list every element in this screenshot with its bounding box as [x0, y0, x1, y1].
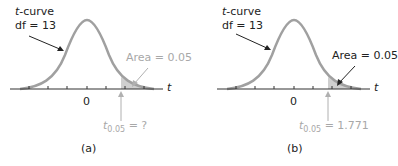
curve-label: t-curve [15, 6, 54, 18]
df-label: df = 13 [15, 20, 56, 32]
panel-b: t-curve df = 13 Area = 0.05 t 0 t0.05 = … [197, 0, 393, 166]
zero-tick-label: 0 [83, 96, 90, 108]
axis-variable-label: t [374, 82, 378, 94]
curve-label-rest: -curve [226, 5, 261, 18]
critical-value: = 1.771 [321, 119, 369, 132]
area-label: Area = 0.05 [332, 50, 398, 62]
arrowhead-up-icon [118, 91, 124, 97]
critical-value-label: t0.05 = 1.771 [299, 120, 369, 133]
area-label: Area = 0.05 [126, 52, 192, 64]
curve-label: t-curve [222, 6, 261, 18]
critical-value: = ? [125, 119, 147, 132]
critical-subscript: 0.05 [303, 125, 321, 134]
curve-label-rest: -curve [19, 5, 54, 18]
curve-pointer-arrow [29, 36, 62, 50]
area-pointer-arrow [339, 66, 355, 83]
curve-pointer-arrow [236, 34, 269, 49]
caption-a: (a) [81, 143, 96, 155]
critical-value-label: t0.05 = ? [103, 120, 147, 133]
arrowhead-up-icon [325, 91, 331, 97]
df-label: df = 13 [222, 20, 263, 32]
panel-a: t-curve df = 13 Area = 0.05 t 0 t0.05 = … [0, 0, 196, 166]
zero-tick-label: 0 [290, 96, 297, 108]
critical-subscript: 0.05 [107, 125, 125, 134]
area-pointer-arrow [134, 68, 148, 84]
caption-b: (b) [287, 143, 303, 155]
axis-variable-label: t [167, 82, 171, 94]
